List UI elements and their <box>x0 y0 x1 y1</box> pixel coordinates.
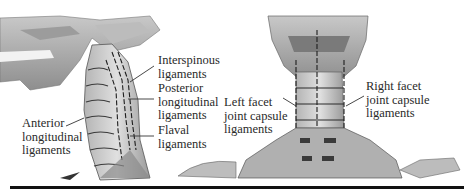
label-left-facet-joint-capsule-ligaments: Left facet joint capsule ligaments <box>224 96 288 137</box>
label-flaval-ligaments: Flaval ligaments <box>158 124 207 151</box>
label-right-facet-joint-capsule-ligaments: Right facet joint capsule ligaments <box>366 80 430 121</box>
label-anterior-longitudinal-ligaments: Anterior longitudinal ligaments <box>22 117 82 158</box>
posterior-skull <box>268 16 368 80</box>
lateral-skull <box>0 16 160 90</box>
bottom-rule <box>10 186 464 189</box>
shoulder-fragment <box>178 161 236 178</box>
label-interspinous-ligaments: Interspinous ligaments <box>158 54 220 81</box>
label-posterior-longitudinal-ligaments: Posterior longitudinal ligaments <box>158 82 218 123</box>
